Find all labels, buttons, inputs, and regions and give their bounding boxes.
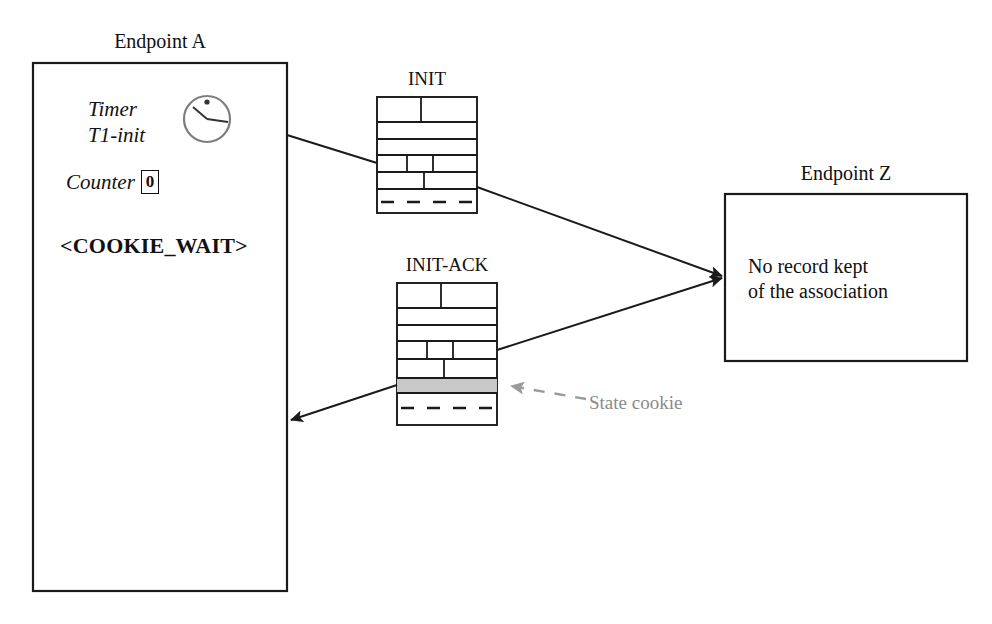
- state-cookie-label: State cookie: [589, 392, 682, 414]
- state-label: <COOKIE_WAIT>: [60, 233, 248, 259]
- cookie-row: [397, 378, 497, 393]
- init-packet: [377, 97, 477, 213]
- endpoint-a-title: Endpoint A: [33, 30, 287, 53]
- clock-icon: [184, 96, 230, 142]
- endpoint-z-title: Endpoint Z: [725, 162, 967, 185]
- counter-row: Counter0: [66, 170, 159, 195]
- diagram-vector-layer: [0, 0, 992, 624]
- endpoint-a-box: [33, 63, 287, 591]
- counter-value: 0: [141, 170, 160, 194]
- timer-label-line1: Timer: [88, 96, 137, 122]
- arrow-initack-to-z: [497, 278, 722, 350]
- cookie-leader-line: [511, 386, 586, 399]
- init-ack-packet: [397, 283, 497, 425]
- init-packet-title: INIT: [377, 68, 477, 90]
- arrow-initack-to-a: [291, 385, 397, 420]
- timer-label-line2: T1-init: [88, 122, 145, 148]
- endpoint-z-body-line2: of the association: [748, 279, 888, 304]
- diagram-canvas: Endpoint A Timer T1-init Counter0 <COOKI…: [0, 0, 992, 624]
- init-ack-packet-title: INIT-ACK: [377, 254, 517, 276]
- endpoint-z-body-line1: No record kept: [748, 254, 868, 279]
- arrow-a-to-init: [287, 135, 377, 163]
- counter-label: Counter: [66, 170, 135, 194]
